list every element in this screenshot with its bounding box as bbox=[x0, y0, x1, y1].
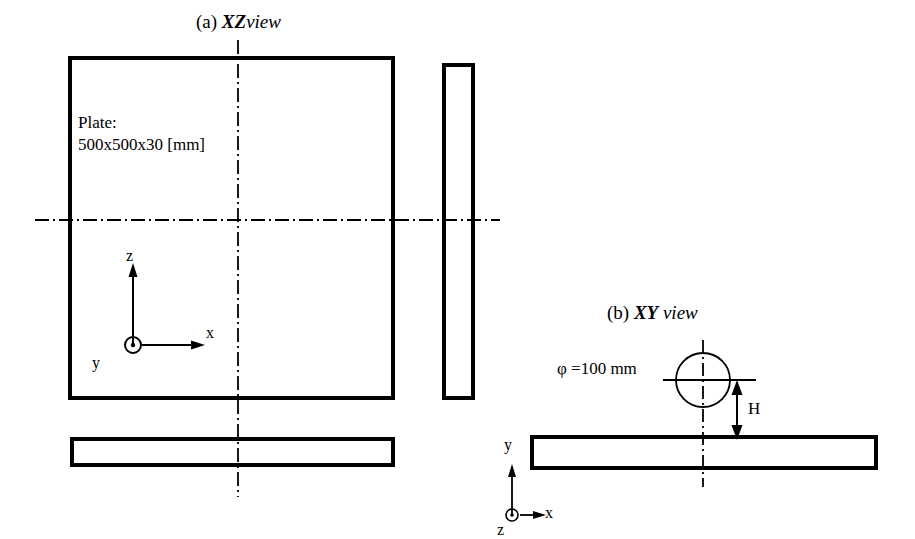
standoff-arrow-head-up bbox=[732, 380, 743, 395]
view-name-bold-xz: XZ bbox=[222, 11, 246, 32]
view-name-italic-xy: view bbox=[663, 302, 698, 323]
xz-axis-label-x: x bbox=[206, 325, 214, 341]
xz-plate-front-face bbox=[70, 58, 393, 398]
xy-axis-y-arrowhead bbox=[508, 464, 516, 477]
xy-axis-label-z: z bbox=[497, 522, 504, 538]
xy-axis-triad bbox=[506, 464, 546, 521]
view-title-xz: (a) XZview bbox=[196, 12, 281, 31]
xz-plate-side-view bbox=[444, 65, 473, 398]
xz-axis-label-y: y bbox=[92, 355, 100, 371]
view-tag-xz: (a) bbox=[196, 11, 217, 32]
xy-plate-edge-view bbox=[532, 437, 876, 468]
figure-root: (a) XZview (b) XY view Plate: 500x500x30… bbox=[0, 0, 915, 539]
plate-caption-line-1: Plate: bbox=[78, 112, 205, 134]
xz-axis-z-arrowhead bbox=[129, 263, 138, 277]
view-name-italic-xz: view bbox=[246, 11, 281, 32]
xz-axis-x-arrowhead bbox=[191, 341, 205, 350]
xy-axis-z-out-of-page-dot bbox=[510, 513, 514, 517]
plate-caption-line-2: 500x500x30 [mm] bbox=[78, 134, 205, 156]
xz-axis-triad bbox=[125, 263, 205, 353]
standoff-height-label: H bbox=[748, 400, 760, 417]
standoff-dimension-arrow bbox=[732, 380, 743, 440]
view-tag-xy: (b) bbox=[607, 302, 629, 323]
xy-axis-label-x: x bbox=[545, 505, 553, 521]
view-title-xy: (b) XY view bbox=[607, 303, 698, 322]
view-name-bold-xy: XY bbox=[634, 302, 658, 323]
xz-axis-y-out-of-page-dot bbox=[131, 343, 135, 347]
projectile-diameter-label: φ =100 mm bbox=[557, 360, 637, 377]
plate-specification-caption: Plate: 500x500x30 [mm] bbox=[78, 112, 205, 157]
xy-axis-label-y: y bbox=[504, 437, 512, 453]
technical-drawing-canvas bbox=[0, 0, 915, 539]
xz-axis-label-z: z bbox=[126, 248, 133, 264]
xz-plate-bottom-view bbox=[72, 439, 393, 465]
